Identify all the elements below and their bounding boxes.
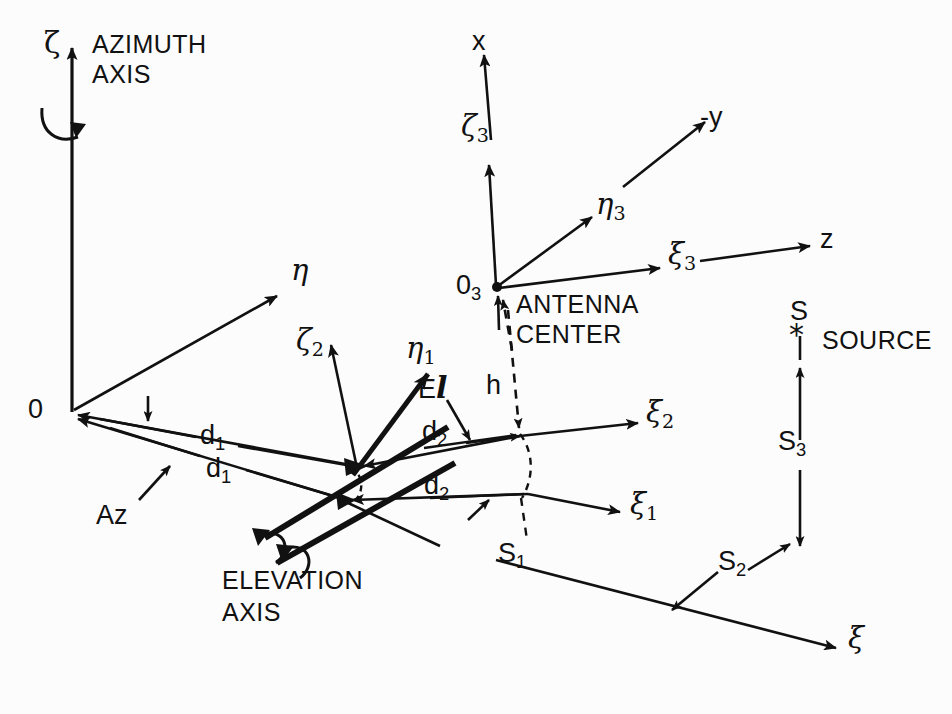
eta3-symbol: η — [596, 187, 613, 221]
s3-symbol: S — [778, 426, 796, 456]
s3-label: S3 — [778, 428, 806, 459]
axis-label-xi3: ξ3 — [668, 240, 696, 273]
el-angle-label: El — [418, 373, 447, 403]
s2-symbol: S — [718, 546, 736, 576]
xi1-symbol: ξ — [630, 487, 646, 521]
d1-lower-label: d1 — [206, 455, 231, 486]
s2-leader-arrow-right-icon — [748, 544, 790, 570]
antenna-center-leader-arrow-icon — [498, 296, 499, 330]
xi3-symbol: ξ — [668, 237, 684, 271]
s2-label: S2 — [718, 548, 746, 579]
zeta2-symbol: ζ — [296, 323, 312, 357]
el-leader-arrow-icon — [447, 400, 470, 440]
s1-subscript: 1 — [516, 551, 526, 572]
s3-subscript: 3 — [796, 439, 806, 460]
h-label: h — [486, 372, 501, 399]
xi2-subscript: 2 — [662, 410, 674, 433]
xi1-axis-vector — [528, 494, 620, 512]
antenna-center-label-line1: ANTENNA — [516, 292, 639, 317]
source-star-glyph: * — [789, 320, 804, 350]
zeta3-symbol: ζ — [461, 109, 477, 143]
xi2-symbol: ξ — [646, 395, 662, 429]
axis-label-xi1: ξ1 — [630, 490, 658, 523]
zeta3-axis-vector — [489, 165, 496, 285]
xi3-axis-vector — [499, 268, 660, 288]
axis-label-z: z — [820, 226, 834, 253]
eta1-subscript: 1 — [423, 346, 435, 369]
diagram-vector-canvas — [0, 0, 952, 714]
eta-axis-vector — [74, 296, 277, 410]
d1-upper-subscript: 1 — [215, 433, 225, 454]
el-prefix: E — [418, 374, 436, 404]
source-label: SOURCE — [822, 328, 932, 353]
d1-lower-symbol: d — [206, 453, 221, 483]
axis-label-x: x — [472, 28, 486, 55]
elevation-axis-label-line2: AXIS — [222, 600, 281, 625]
azimuth-rotation-arrow-icon — [42, 108, 86, 139]
az-angle-label: Az — [96, 502, 128, 529]
zeta2-axis-vector — [331, 345, 357, 468]
axis-label-zeta3: ζ3 — [461, 112, 489, 145]
azimuth-axis-label-line1: AZIMUTH — [92, 32, 207, 57]
d1-lower-subscript: 1 — [221, 466, 231, 487]
d2-lower-subscript: 2 — [439, 483, 449, 504]
d2-lower-leader-arrow-icon — [468, 500, 489, 520]
d1-upper-label: d1 — [200, 422, 225, 453]
elevation-axis-label-line1: ELEVATION — [222, 568, 363, 593]
o3-origin-label: 03 — [456, 272, 481, 303]
d1-upper-symbol: d — [200, 420, 215, 450]
eta3-subscript: 3 — [613, 202, 625, 225]
d2-upper-symbol: d — [422, 416, 437, 446]
s2-subscript: 2 — [736, 559, 746, 580]
d2-lower-label: d2 — [424, 472, 449, 503]
axis-label-eta: η — [291, 256, 308, 285]
zeta2-subscript: 2 — [312, 338, 324, 361]
axis-label-zeta: ζ — [44, 28, 60, 58]
axis-label-minus-y: -y — [700, 104, 723, 131]
eta3-axis-vector — [498, 217, 592, 286]
antenna-coordinate-diagram: ζ AZIMUTH AXIS 0 η Az d1 d1 ζ2 η1 El h d… — [0, 0, 952, 714]
minus-y-axis-vector — [623, 122, 705, 187]
elevation-angle-arc-large — [520, 434, 531, 498]
origin-label: 0 — [28, 396, 43, 423]
xi2-axis-vector — [520, 423, 638, 436]
s2-leader-arrow-left-icon — [672, 572, 718, 610]
axis-label-eta1: η1 — [406, 334, 436, 367]
axis-label-xi2: ξ2 — [646, 398, 674, 431]
az-leader-arrow-icon — [139, 466, 170, 500]
o3-subscript: 3 — [471, 283, 481, 304]
xi3-subscript: 3 — [684, 252, 696, 275]
el-script-l: l — [436, 370, 447, 405]
d2-lower-symbol: d — [424, 470, 439, 500]
axis-label-eta3: η3 — [596, 190, 626, 223]
d2-upper-subscript: 2 — [437, 429, 447, 450]
azimuth-axis-label-line2: AXIS — [92, 62, 151, 87]
axis-label-zeta2: ζ2 — [296, 326, 324, 359]
antenna-center-label-line2: CENTER — [516, 322, 622, 347]
z-axis-vector — [700, 246, 810, 261]
xi1-subscript: 1 — [646, 502, 658, 525]
zeta3-subscript: 3 — [477, 124, 489, 147]
s1-label: S1 — [498, 540, 526, 571]
axis-label-xi: ξ — [848, 624, 864, 653]
d2-upper-label: d2 — [422, 418, 447, 449]
o3-symbol: 0 — [456, 270, 471, 300]
s1-symbol: S — [498, 538, 516, 568]
eta1-symbol: η — [406, 331, 423, 365]
xi-axis-vector — [346, 502, 836, 648]
